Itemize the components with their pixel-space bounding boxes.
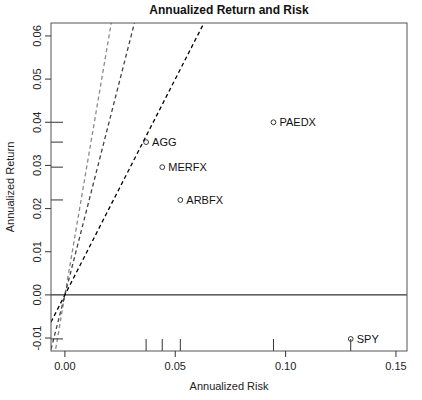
y-tick-label: 0.03 bbox=[31, 155, 43, 176]
y-tick-label: 0.01 bbox=[31, 241, 43, 262]
data-point-label: MERFX bbox=[168, 161, 207, 173]
x-tick-label: 0.05 bbox=[165, 360, 186, 372]
data-point-marker bbox=[178, 198, 183, 203]
plot-frame bbox=[51, 23, 407, 351]
y-axis-label: Annualized Return bbox=[4, 142, 16, 233]
x-axis: 0.000.050.100.15 bbox=[54, 351, 406, 372]
data-point-label: ARBFX bbox=[186, 194, 223, 206]
data-point-marker bbox=[144, 140, 149, 145]
x-axis-label: Annualized Risk bbox=[190, 380, 269, 392]
y-axis: -0.010.000.010.020.030.040.050.06 bbox=[31, 25, 51, 350]
rug-ticks bbox=[51, 122, 351, 351]
x-tick-label: 0.00 bbox=[54, 360, 75, 372]
x-tick-label: 0.15 bbox=[385, 360, 406, 372]
data-point-label: PAEDX bbox=[279, 116, 316, 128]
y-tick-label: 0.04 bbox=[31, 112, 43, 133]
y-tick-label: 0.00 bbox=[31, 284, 43, 305]
risk-return-chart: Annualized Return and Risk PAEDXAGGMERFX… bbox=[0, 0, 422, 400]
y-tick-label: 0.02 bbox=[31, 198, 43, 219]
data-point-marker bbox=[160, 165, 165, 170]
y-tick-label: 0.05 bbox=[31, 68, 43, 89]
x-tick-label: 0.10 bbox=[275, 360, 296, 372]
plot-area: PAEDXAGGMERFXARBFXSPY bbox=[51, 23, 407, 376]
reference-lines bbox=[51, 23, 407, 376]
chart-title: Annualized Return and Risk bbox=[149, 3, 309, 17]
data-point-marker bbox=[271, 120, 276, 125]
y-tick-label: 0.06 bbox=[31, 25, 43, 46]
data-point-label: SPY bbox=[357, 333, 380, 345]
dashed-ray-line bbox=[51, 23, 134, 349]
data-points: PAEDXAGGMERFXARBFXSPY bbox=[144, 116, 380, 345]
y-tick-label: -0.01 bbox=[31, 326, 43, 351]
data-point-label: AGG bbox=[152, 136, 176, 148]
